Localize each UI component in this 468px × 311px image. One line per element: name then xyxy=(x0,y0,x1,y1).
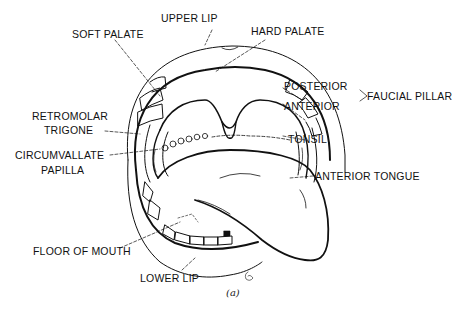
tongue-outline xyxy=(158,150,328,260)
label-anterior-tongue: ANTERIOR TONGUE xyxy=(315,170,420,182)
label-posterior: POSTERIOR xyxy=(284,80,348,92)
lower-teeth xyxy=(143,182,232,245)
label-floor-of-mouth: FLOOR OF MOUTH xyxy=(33,245,131,257)
label-papilla: PAPILLA xyxy=(41,164,84,176)
label-trigone: TRIGONE xyxy=(44,124,93,136)
figure-caption: (a) xyxy=(226,287,240,298)
label-circumvallate: CIRCUMVALLATE xyxy=(15,149,104,161)
label-lower-lip: LOWER LIP xyxy=(140,272,199,284)
leader-lines xyxy=(105,30,313,270)
label-retromolar: RETROMOLAR xyxy=(32,110,108,122)
label-faucial-pillar: FAUCIAL PILLAR xyxy=(367,90,452,102)
label-upper-lip: UPPER LIP xyxy=(161,12,218,24)
oral-cavity-diagram: UPPER LIP SOFT PALATE HARD PALATE POSTER… xyxy=(0,0,468,311)
label-anterior: ANTERIOR xyxy=(284,100,340,112)
label-soft-palate: SOFT PALATE xyxy=(72,28,144,40)
label-tonsil: TONSIL xyxy=(288,133,327,145)
label-hard-palate: HARD PALATE xyxy=(251,25,325,37)
